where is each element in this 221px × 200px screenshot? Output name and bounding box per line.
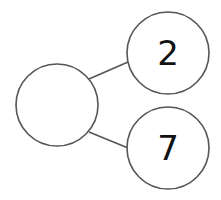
part-value-bottom: 7 <box>157 128 179 168</box>
number-bond-diagram: 2 7 <box>0 0 221 200</box>
part-value-top: 2 <box>157 33 179 73</box>
connector-top <box>89 62 128 79</box>
part-circle-bottom: 7 <box>127 107 209 189</box>
whole-circle[interactable] <box>16 64 98 146</box>
part-circle-top: 2 <box>127 12 209 94</box>
connector-bottom <box>89 132 128 148</box>
